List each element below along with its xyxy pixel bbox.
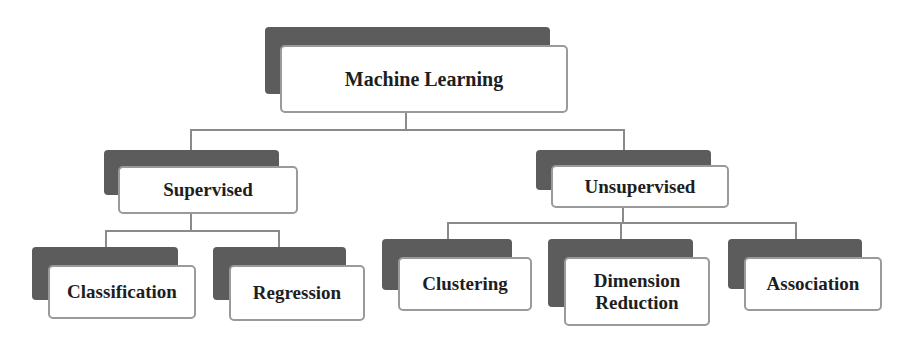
node-unsupervised: Unsupervised bbox=[551, 165, 729, 208]
node-label: Regression bbox=[253, 282, 341, 304]
connector-supervised-horizontal bbox=[105, 230, 280, 232]
connector-to-classification bbox=[105, 230, 107, 248]
node-association: Association bbox=[744, 257, 882, 311]
node-label: Classification bbox=[67, 281, 177, 303]
node-supervised: Supervised bbox=[118, 166, 298, 214]
connector-to-dimension-reduction bbox=[620, 222, 622, 240]
node-label: Machine Learning bbox=[345, 68, 503, 91]
node-label-line-1: Dimension bbox=[594, 270, 681, 292]
node-label: Association bbox=[767, 273, 860, 295]
connector-to-unsupervised bbox=[623, 129, 625, 151]
node-machine-learning: Machine Learning bbox=[280, 45, 568, 113]
node-dimension-reduction: Dimension Reduction bbox=[564, 257, 710, 326]
node-label: Unsupervised bbox=[585, 176, 696, 198]
node-label-line-2: Reduction bbox=[595, 292, 678, 314]
connector-unsupervised-horizontal bbox=[447, 222, 797, 224]
connector-to-regression bbox=[278, 230, 280, 248]
connector-root-horizontal bbox=[190, 129, 625, 131]
node-label: Clustering bbox=[422, 273, 508, 295]
connector-root-down bbox=[405, 112, 407, 130]
connector-to-supervised bbox=[190, 129, 192, 151]
node-label: Supervised bbox=[163, 179, 253, 201]
connector-to-association bbox=[795, 222, 797, 240]
connector-to-clustering bbox=[447, 222, 449, 240]
connector-unsupervised-down bbox=[622, 207, 624, 223]
node-clustering: Clustering bbox=[398, 257, 532, 311]
node-classification: Classification bbox=[48, 265, 196, 319]
node-regression: Regression bbox=[229, 265, 365, 321]
connector-supervised-down bbox=[190, 213, 192, 231]
